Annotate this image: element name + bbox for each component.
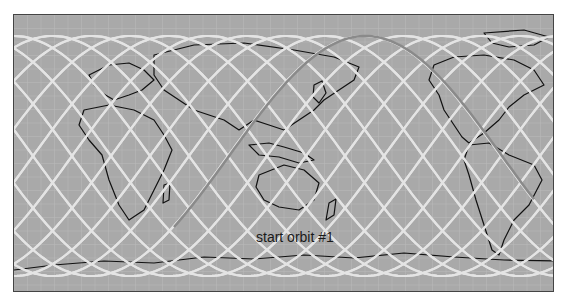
start-orbit-label: start orbit #1 bbox=[256, 229, 334, 245]
map-canvas bbox=[14, 15, 554, 292]
world-map bbox=[13, 14, 554, 292]
lat-lon-grid bbox=[14, 15, 554, 292]
